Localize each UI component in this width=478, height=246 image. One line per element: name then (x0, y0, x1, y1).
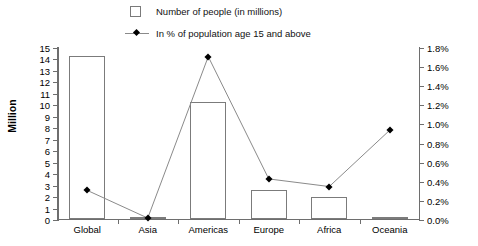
y-tick-label-left: 7 (20, 134, 50, 145)
y-tick-label-right: 1.2% (427, 100, 467, 111)
y-tick-label-left: 8 (20, 123, 50, 134)
x-tick-label-americas: Americas (188, 224, 228, 235)
y-tick-label-right: 1.6% (427, 62, 467, 73)
y-tick-label-left: 11 (20, 88, 50, 99)
y-tick-label-right: 1.8% (427, 43, 467, 54)
y-tick-label-right: 0.0% (427, 215, 467, 226)
y-tick-label-left: 1 (20, 203, 50, 214)
y-tick-left (53, 220, 58, 221)
y-tick-label-left: 3 (20, 180, 50, 191)
y-tick-label-right: 0.2% (427, 195, 467, 206)
y-tick-label-right: 1.4% (427, 81, 467, 92)
x-tick-label-global: Global (74, 224, 101, 235)
chart-legend: Number of people (in millions) In % of p… (124, 4, 384, 48)
y-axis-title-left: Million (6, 86, 18, 146)
plot-area: 0123456789101112131415 0.0%0.2%0.4%0.6%0… (57, 48, 420, 220)
y-tick-label-left: 2 (20, 192, 50, 203)
y-tick-label-left: 14 (20, 54, 50, 65)
y-tick-label-left: 4 (20, 169, 50, 180)
legend-label-line: In % of population age 15 and above (156, 28, 311, 40)
y-tick-label-right: 0.8% (427, 138, 467, 149)
y-tick-label-left: 15 (20, 43, 50, 54)
y-tick-label-left: 13 (20, 65, 50, 76)
line-series (57, 48, 420, 220)
y-tick-label-left: 0 (20, 215, 50, 226)
y-tick-label-left: 6 (20, 146, 50, 157)
line-swatch-icon (124, 27, 156, 41)
y-tick-label-left: 10 (20, 100, 50, 111)
x-tick-label-europe: Europe (253, 224, 284, 235)
y-tick-label-left: 5 (20, 157, 50, 168)
chart-container: Number of people (in millions) In % of p… (0, 0, 478, 246)
y-tick-label-right: 1.0% (427, 119, 467, 130)
x-tick-label-asia: Asia (139, 224, 157, 235)
legend-item-bars: Number of people (in millions) (124, 4, 384, 20)
y-tick-label-left: 9 (20, 111, 50, 122)
y-tick-right (419, 220, 424, 221)
legend-label-bars: Number of people (in millions) (156, 6, 282, 18)
legend-item-line: In % of population age 15 and above (124, 26, 384, 42)
bar-swatch-icon (124, 5, 156, 19)
x-tick-label-oceania: Oceania (372, 224, 407, 235)
y-tick-label-right: 0.6% (427, 157, 467, 168)
y-tick-label-right: 0.4% (427, 176, 467, 187)
y-tick-label-left: 12 (20, 77, 50, 88)
x-tick-label-africa: Africa (317, 224, 341, 235)
